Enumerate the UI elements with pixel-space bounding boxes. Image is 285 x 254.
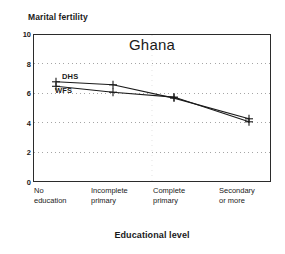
plot-area — [33, 34, 271, 182]
y-axis-tick-labels: 10 8 6 4 2 0 — [4, 0, 31, 254]
x-tick-line-2: primary — [153, 196, 225, 206]
x-tick-line-1: Complete — [153, 186, 225, 196]
plot-svg — [34, 35, 270, 181]
x-tick-label-secondary-or-more: Secondary or more — [219, 186, 285, 206]
y-tick-4: 4 — [9, 118, 31, 127]
y-tick-10: 10 — [9, 30, 31, 39]
y-tick-0: 0 — [9, 178, 31, 187]
x-tick-line-1: Secondary — [219, 186, 285, 196]
x-tick-line-2: or more — [219, 196, 285, 206]
chart-title: Ghana — [33, 36, 271, 53]
series-wfs — [52, 82, 253, 126]
x-axis-tick-labels: No education Incomplete primary Complete… — [33, 186, 271, 214]
x-axis-title: Educational level — [33, 230, 271, 240]
x-tick-label-complete-primary: Complete primary — [153, 186, 225, 206]
y-axis-title: Marital fertility — [28, 12, 88, 22]
series-dhs — [52, 78, 253, 123]
y-tick-2: 2 — [9, 148, 31, 157]
y-tick-6: 6 — [9, 89, 31, 98]
marital-fertility-line-chart: Marital fertility 10 8 6 4 2 0 — [0, 0, 285, 254]
series-label-wfs: WFS — [55, 86, 72, 95]
series-label-dhs: DHS — [62, 72, 78, 81]
y-tick-8: 8 — [9, 59, 31, 68]
